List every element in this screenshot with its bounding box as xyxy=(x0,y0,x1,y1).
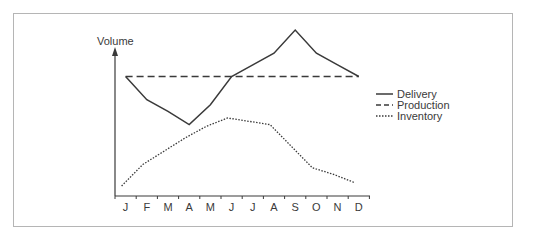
legend-label: Inventory xyxy=(397,110,443,122)
x-tick-label: J xyxy=(123,201,129,213)
x-tick-label: N xyxy=(334,201,342,213)
x-tick-label: D xyxy=(355,201,363,213)
x-tick-label: A xyxy=(186,201,194,213)
x-axis-labels: JFMAMJJASOND xyxy=(123,201,363,213)
x-tick-label: S xyxy=(292,201,299,213)
x-tick-label: J xyxy=(229,201,235,213)
legend: Delivery Production Inventory xyxy=(376,88,450,122)
x-tick-label: M xyxy=(206,201,215,213)
legend-item-inventory: Inventory xyxy=(376,110,443,122)
x-tick-label: F xyxy=(143,201,150,213)
x-tick-label: O xyxy=(312,201,321,213)
x-tick-label: J xyxy=(250,201,256,213)
inventory-line xyxy=(122,118,355,186)
x-tick-label: A xyxy=(270,201,278,213)
y-axis-label: Volume xyxy=(97,35,134,47)
x-tick-label: M xyxy=(163,201,172,213)
y-axis-arrow-icon xyxy=(112,47,118,56)
line-chart: Volume JFMAMJJASOND Delivery Production … xyxy=(0,0,548,237)
